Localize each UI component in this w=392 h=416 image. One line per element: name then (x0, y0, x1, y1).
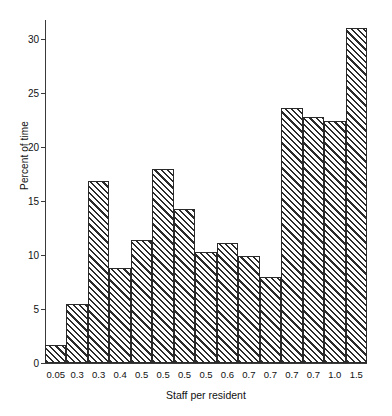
histogram-bar (195, 252, 216, 363)
histogram-bar (324, 121, 345, 363)
x-axis-line (45, 363, 367, 364)
histogram-bar (303, 117, 324, 363)
x-tick-label: 0.5 (199, 369, 212, 380)
y-tick-label: 0 (33, 363, 39, 364)
x-tick-label: 0.05 (46, 369, 65, 380)
x-tick-label: 0.7 (307, 369, 320, 380)
x-tick-label: 0.5 (156, 369, 169, 380)
histogram-figure: Percent of time 051015202530 0.050.30.30… (0, 0, 392, 416)
y-tick-label: 25 (28, 93, 39, 94)
x-tick-label: 1.5 (350, 369, 363, 380)
x-tick-label: 0.6 (221, 369, 234, 380)
histogram-bar (217, 243, 238, 363)
histogram-bar (66, 304, 87, 363)
histogram-bar (45, 345, 66, 363)
histogram-bar (152, 169, 173, 363)
x-tick-label: 0.7 (264, 369, 277, 380)
y-tick-label: 20 (28, 147, 39, 148)
histogram-bar (346, 28, 367, 363)
y-tick-label: 30 (28, 39, 39, 40)
x-tick-label: 0.3 (71, 369, 84, 380)
x-tick-label: 0.3 (92, 369, 105, 380)
x-tick-label: 0.5 (135, 369, 148, 380)
histogram-bar (109, 268, 130, 363)
y-tick-mark (41, 363, 45, 364)
histogram-bar (260, 277, 281, 363)
histogram-bar (88, 181, 109, 363)
x-tick-label: 0.4 (114, 369, 127, 380)
histogram-bar (131, 240, 152, 363)
x-tick-label: 0.7 (242, 369, 255, 380)
x-axis-title: Staff per resident (45, 389, 367, 401)
plot-area: 051015202530 0.050.30.30.40.50.50.50.50.… (45, 20, 367, 363)
histogram-bar (174, 209, 195, 363)
bars-group (45, 20, 367, 363)
histogram-bar (281, 108, 302, 363)
y-tick-label: 15 (28, 201, 39, 202)
x-tick-label: 0.7 (285, 369, 298, 380)
y-tick-label: 5 (33, 309, 39, 310)
x-tick-label: 1.0 (328, 369, 341, 380)
histogram-bar (238, 256, 259, 363)
y-tick-label: 10 (28, 255, 39, 256)
x-tick-label: 0.5 (178, 369, 191, 380)
